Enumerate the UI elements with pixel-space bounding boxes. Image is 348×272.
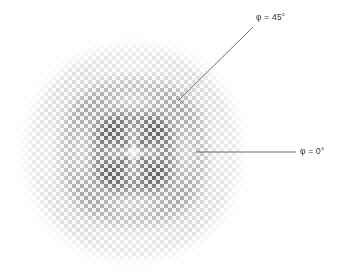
annotation-label-phi0: φ = 0° [300,146,325,156]
diffraction-pattern-heatmap [0,0,348,272]
diffraction-figure: φ = 45° φ = 0° [0,0,348,272]
annotation-label-phi45: φ = 45° [256,12,285,22]
